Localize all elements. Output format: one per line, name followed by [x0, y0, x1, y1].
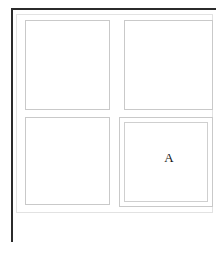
- panel-bottom-right[interactable]: A: [119, 117, 213, 207]
- panel-bottom-left[interactable]: [25, 117, 110, 205]
- top-rule-line: [11, 8, 216, 10]
- panel-bottom-right-label: A: [125, 151, 207, 164]
- figure-canvas: A: [0, 0, 221, 254]
- panel-bottom-right-inner-frame: A: [124, 122, 208, 202]
- left-rule-line: [11, 8, 13, 242]
- panel-top-left[interactable]: [25, 20, 110, 110]
- panel-top-right[interactable]: [124, 20, 213, 110]
